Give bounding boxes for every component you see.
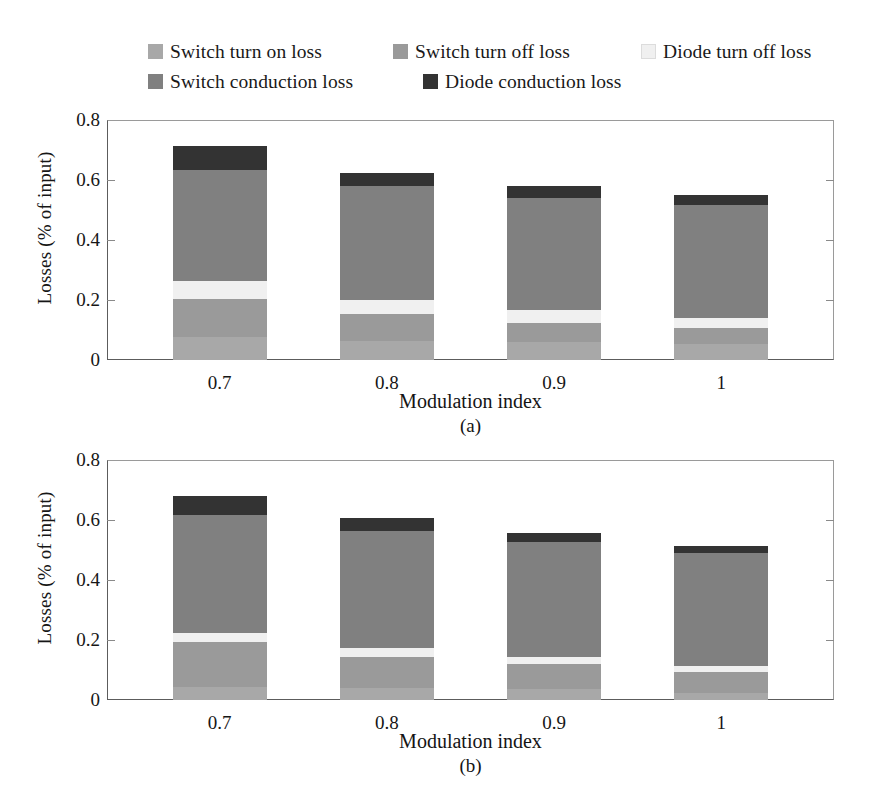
plot-wrap-b: 00.20.40.60.8 0.70.80.91 <box>107 460 834 700</box>
bar-segment-b-0_8-switch-turn-on-loss <box>340 688 434 700</box>
legend-item-diode-turn-off[interactable]: Diode turn off loss <box>641 42 811 61</box>
bar-segment-a-1-switch-turn-off-loss <box>674 328 768 344</box>
legend-item-diode-conduction[interactable]: Diode conduction loss <box>423 72 622 91</box>
bar-segment-b-1-switch-turn-on-loss <box>674 693 768 700</box>
bar-segment-a-1-diode-turn-off-loss <box>674 318 768 328</box>
bar-group-a <box>107 120 834 360</box>
bar-segment-a-1-switch-turn-on-loss <box>674 344 768 360</box>
figure-stacked-loss-breakdown: Switch turn on loss Switch turn off loss… <box>0 0 876 805</box>
bar-segment-a-0_7-switch-turn-on-loss <box>173 337 267 360</box>
legend-item-switch-conduction[interactable]: Switch conduction loss <box>148 72 423 91</box>
legend-item-switch-turn-on[interactable]: Switch turn on loss <box>148 42 393 61</box>
bar-group-b <box>107 460 834 700</box>
bar-segment-b-0_9-switch-turn-on-loss <box>507 689 601 700</box>
y-tick-label-b-0_8: 0.8 <box>40 449 100 471</box>
legend-row-1: Switch turn on loss Switch turn off loss… <box>148 42 848 72</box>
y-tick-label-b-0_4: 0.4 <box>40 569 100 591</box>
bar-b-1[interactable] <box>674 546 768 700</box>
bar-segment-a-0_7-diode-turn-off-loss <box>173 281 267 299</box>
bar-b-0_9[interactable] <box>507 533 601 700</box>
bar-segment-a-0_9-switch-conduction-loss <box>507 198 601 310</box>
bar-segment-a-0_9-switch-turn-off-loss <box>507 323 601 343</box>
bar-b-0_8[interactable] <box>340 518 434 700</box>
y-tick-label-b-0_2: 0.2 <box>40 629 100 651</box>
bar-segment-b-0_8-diode-conduction-loss <box>340 518 434 531</box>
bar-segment-b-0_7-diode-turn-off-loss <box>173 633 267 642</box>
legend-label-switch-turn-on: Switch turn on loss <box>170 42 322 61</box>
bar-segment-a-0_7-switch-conduction-loss <box>173 170 267 281</box>
bar-segment-b-0_7-switch-turn-off-loss <box>173 642 267 688</box>
y-tick-label-a-0_4: 0.4 <box>40 229 100 251</box>
legend-label-diode-turn-off: Diode turn off loss <box>663 42 811 61</box>
y-tick-label-a-0_2: 0.2 <box>40 289 100 311</box>
bar-segment-a-0_7-switch-turn-off-loss <box>173 299 267 337</box>
bar-segment-b-0_9-switch-turn-off-loss <box>507 664 601 689</box>
bar-segment-b-0_9-switch-conduction-loss <box>507 542 601 657</box>
chart-legend: Switch turn on loss Switch turn off loss… <box>148 42 848 102</box>
legend-swatch-diode-conduction-icon <box>423 74 438 89</box>
bar-a-0_8[interactable] <box>340 173 434 360</box>
bar-segment-a-0_7-diode-conduction-loss <box>173 146 267 170</box>
bar-segment-a-1-switch-conduction-loss <box>674 205 768 318</box>
legend-swatch-switch-conduction-icon <box>148 74 163 89</box>
legend-item-switch-turn-off[interactable]: Switch turn off loss <box>393 42 641 61</box>
bar-segment-b-0_7-diode-conduction-loss <box>173 496 267 515</box>
bar-segment-b-1-switch-turn-off-loss <box>674 672 768 694</box>
bar-segment-b-0_8-switch-conduction-loss <box>340 531 434 648</box>
bar-segment-a-0_8-switch-turn-off-loss <box>340 314 434 341</box>
y-tick-label-a-0_6: 0.6 <box>40 169 100 191</box>
x-axis-title-a: Modulation index <box>107 390 834 413</box>
legend-label-diode-conduction: Diode conduction loss <box>445 72 622 91</box>
bar-segment-b-0_9-diode-turn-off-loss <box>507 657 601 665</box>
panel-a: Losses (% of input) 00.20.40.60.8 0.70.8… <box>0 112 876 442</box>
bar-segment-a-1-diode-conduction-loss <box>674 195 768 205</box>
legend-swatch-switch-turn-off-icon <box>393 44 408 59</box>
bar-segment-b-0_9-diode-conduction-loss <box>507 533 601 542</box>
bar-a-1[interactable] <box>674 195 768 360</box>
bar-segment-a-0_8-diode-turn-off-loss <box>340 300 434 314</box>
bar-segment-a-0_8-diode-conduction-loss <box>340 173 434 187</box>
x-axis-title-b: Modulation index <box>107 730 834 753</box>
bar-a-0_7[interactable] <box>173 146 267 360</box>
bar-segment-b-0_7-switch-turn-on-loss <box>173 687 267 700</box>
legend-label-switch-turn-off: Switch turn off loss <box>415 42 570 61</box>
bar-b-0_7[interactable] <box>173 496 267 700</box>
panel-caption-b: (b) <box>107 755 834 777</box>
bar-segment-a-0_8-switch-turn-on-loss <box>340 341 434 360</box>
legend-label-switch-conduction: Switch conduction loss <box>170 72 353 91</box>
bar-segment-a-0_9-diode-turn-off-loss <box>507 310 601 322</box>
legend-swatch-switch-turn-on-icon <box>148 44 163 59</box>
bar-segment-b-0_8-switch-turn-off-loss <box>340 657 434 688</box>
y-tick-label-b-0_6: 0.6 <box>40 509 100 531</box>
bar-segment-a-0_9-switch-turn-on-loss <box>507 342 601 360</box>
plot-wrap-a: 00.20.40.60.8 0.70.80.91 <box>107 120 834 360</box>
panel-b: Losses (% of input) 00.20.40.60.8 0.70.8… <box>0 452 876 792</box>
legend-row-2: Switch conduction loss Diode conduction … <box>148 72 848 102</box>
legend-swatch-diode-turn-off-icon <box>641 44 656 59</box>
bar-segment-b-0_7-switch-conduction-loss <box>173 515 267 633</box>
bar-segment-a-0_8-switch-conduction-loss <box>340 186 434 300</box>
bar-segment-a-0_9-diode-conduction-loss <box>507 186 601 198</box>
y-tick-label-a-0_8: 0.8 <box>40 109 100 131</box>
bar-segment-b-0_8-diode-turn-off-loss <box>340 648 434 657</box>
bar-a-0_9[interactable] <box>507 186 601 360</box>
y-tick-label-b-0: 0 <box>40 689 100 711</box>
panel-caption-a: (a) <box>107 415 834 437</box>
bar-segment-b-1-switch-conduction-loss <box>674 553 768 665</box>
bar-segment-b-1-diode-conduction-loss <box>674 546 768 553</box>
y-tick-label-a-0: 0 <box>40 349 100 371</box>
